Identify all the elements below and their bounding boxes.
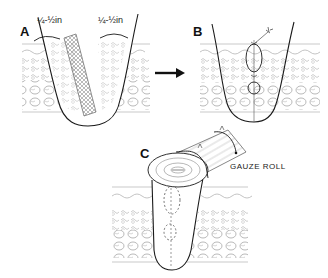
arrow-right-icon [155, 68, 185, 78]
measurement-right: ¼-½in [98, 15, 123, 25]
panel-c-illustration [112, 126, 252, 270]
panel-a-label: A [20, 24, 29, 39]
panel-a-illustration [22, 14, 150, 126]
panel-b-illustration [200, 22, 320, 122]
panel-b-label: B [193, 24, 202, 39]
measurement-left: ¼-½in [37, 15, 62, 25]
panel-c-label: C [140, 146, 149, 161]
diagram-canvas [0, 0, 328, 278]
surgical-diagram: A ¼-½in ¼-½in B C GAUZE ROLL [0, 0, 328, 278]
gauze-roll-caption: GAUZE ROLL [230, 162, 286, 171]
